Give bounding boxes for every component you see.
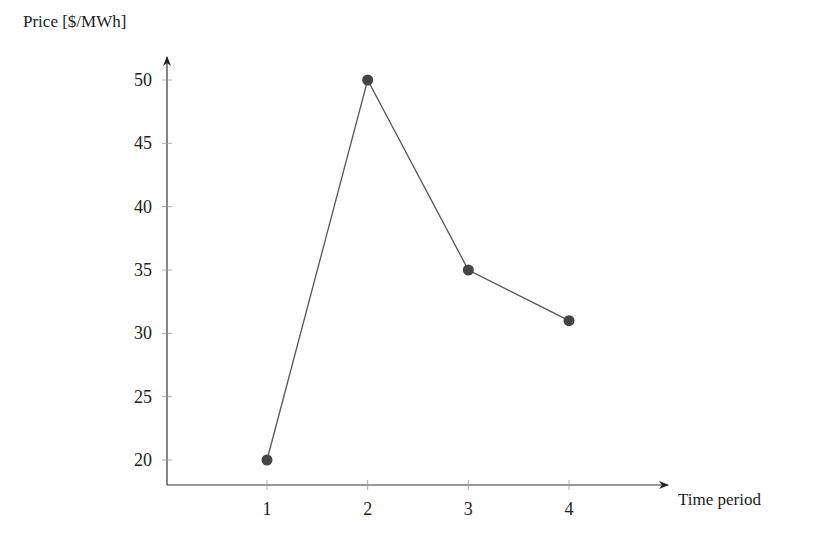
y-axis-label: Price [$/MWh] [23,12,126,31]
price-line [267,80,569,460]
y-tick-label: 35 [134,260,152,280]
x-tick-label: 3 [464,499,473,519]
x-ticks: 1234 [263,480,574,519]
x-tick-label: 2 [363,499,372,519]
y-ticks: 20253035404550 [134,70,172,470]
data-markers [262,75,575,466]
data-point-marker [463,265,474,276]
y-tick-label: 25 [134,387,152,407]
price-chart: 20253035404550 1234 Price [$/MWh] Time p… [0,0,815,540]
y-tick-label: 50 [134,70,152,90]
data-point-marker [262,455,273,466]
data-point-marker [362,75,373,86]
x-tick-label: 1 [263,499,272,519]
axes [167,57,668,485]
data-point-marker [564,315,575,326]
y-tick-label: 30 [134,323,152,343]
y-tick-label: 20 [134,450,152,470]
x-axis-label: Time period [678,490,761,509]
x-tick-label: 4 [565,499,574,519]
y-tick-label: 45 [134,133,152,153]
y-tick-label: 40 [134,197,152,217]
